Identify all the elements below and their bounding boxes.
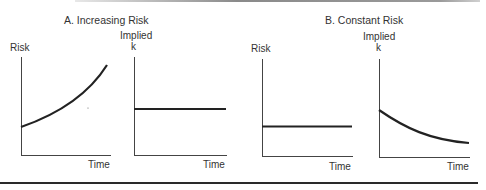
- chart-b1: [262, 59, 353, 157]
- diagram-plots: [0, 0, 486, 190]
- chart-a1: [21, 57, 111, 156]
- bottom-rule: [0, 182, 478, 184]
- chart-b2: [379, 59, 470, 158]
- chart-a1-risk-curve: [21, 65, 107, 127]
- chart-b2-k-curve: [379, 110, 469, 143]
- chart-a2: [134, 57, 227, 156]
